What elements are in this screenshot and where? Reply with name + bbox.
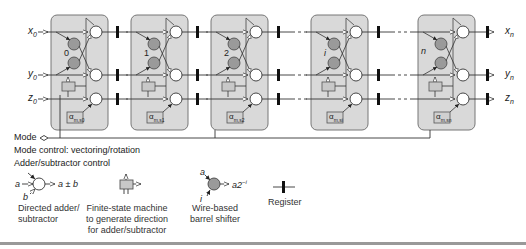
legend-shifter-a: a: [200, 167, 205, 177]
legend-shifter-symbol: [205, 175, 229, 196]
legend-fsm-symbol: [120, 174, 141, 194]
legend-shifter-caption: Wire-basedbarrel shifter: [188, 203, 242, 225]
stage-2-alpha: αm,s2: [229, 112, 244, 123]
legend-adder-a: a: [15, 179, 20, 189]
mode-label: Mode: [14, 132, 37, 142]
input-y-label: y0: [28, 68, 37, 81]
stage-n-alpha: αm,sn: [436, 112, 451, 123]
stage-i-shift-label: i: [324, 48, 326, 58]
legend-adder-caption: Directed adder/subtractor: [18, 203, 80, 225]
legend-register-symbol: [273, 181, 295, 193]
stage-i-alpha: αm,si: [329, 112, 343, 123]
legend-adder-symbol: [22, 173, 55, 194]
output-x-label: xn: [505, 25, 514, 38]
input-lines: [38, 32, 48, 99]
stage-n-shift-label: n: [421, 46, 426, 56]
legend-fsm-caption: Finite-state machineto generate directio…: [84, 203, 170, 236]
adder-z: [90, 93, 102, 105]
input-z-label: z0: [28, 92, 37, 105]
output-y-label: yn: [505, 68, 514, 81]
legend-adder-out: a ± b: [58, 179, 78, 189]
mode-control-text: Mode control: vectoring/rotation: [14, 145, 140, 155]
bottom-divider: [0, 242, 526, 245]
input-x-label: x0: [28, 25, 37, 38]
stage-0-shift-label: 0: [64, 48, 69, 58]
stage-0-alpha: αm,s0: [69, 112, 84, 123]
fsm: [62, 82, 75, 91]
stage-1-shift-label: 1: [144, 48, 149, 58]
output-z-label: zn: [505, 92, 514, 105]
adder-y: [90, 69, 102, 81]
adder-control-text: Adder/subtractor control: [14, 158, 110, 168]
legend-shifter-out: a2−i: [232, 179, 247, 190]
stage-1-alpha: αm,s1: [149, 112, 164, 123]
stage-2-shift-label: 2: [224, 48, 229, 58]
adder-x: [90, 26, 102, 38]
legend-adder-b: b: [23, 192, 28, 202]
legend-register-caption: Register: [268, 197, 302, 208]
